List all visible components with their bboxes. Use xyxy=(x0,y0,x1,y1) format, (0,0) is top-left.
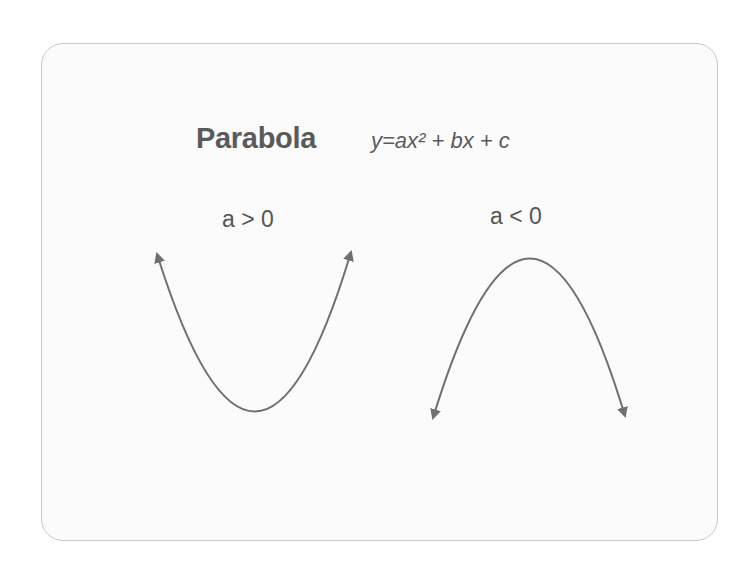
parabola-curves xyxy=(0,0,755,575)
downward-parabola xyxy=(433,258,625,418)
upward-parabola xyxy=(157,252,351,412)
